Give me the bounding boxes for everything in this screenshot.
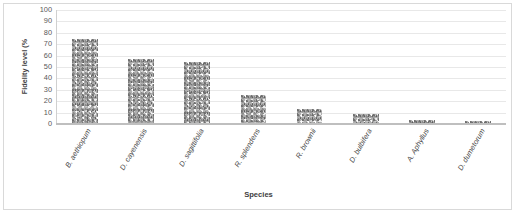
x-axis-tick-label: D. sagittifolia xyxy=(176,127,205,168)
x-label-slot: B. aethiopum xyxy=(57,125,113,187)
bar[interactable] xyxy=(72,39,98,123)
y-axis-tick-label: 100 xyxy=(26,6,52,13)
bar-slot xyxy=(450,10,506,123)
chart-frame: Fidelity level (% 1009080706050403020100… xyxy=(3,3,512,210)
y-axis-tick-label: 80 xyxy=(26,29,52,36)
y-axis-tick-label: 70 xyxy=(26,40,52,47)
x-axis-line xyxy=(56,123,506,124)
y-axis-tick-label: 30 xyxy=(26,86,52,93)
bar-slot xyxy=(394,10,450,123)
bar[interactable] xyxy=(128,59,154,123)
x-label-slot: D. dumetorum xyxy=(451,125,507,187)
x-label-slot: R. splendens xyxy=(226,125,282,187)
x-axis-tick-label: R. brownii xyxy=(294,127,318,160)
y-axis-tick-label: 50 xyxy=(26,63,52,70)
bar[interactable] xyxy=(409,120,435,123)
x-label-slot: D. sagittifolia xyxy=(170,125,226,187)
x-axis-tick-label: R. splendens xyxy=(232,127,261,169)
x-axis-title: Species xyxy=(4,190,513,199)
bar[interactable] xyxy=(297,109,323,123)
bar-slot xyxy=(282,10,338,123)
bar[interactable] xyxy=(241,95,267,123)
y-axis-tick-label: 40 xyxy=(26,75,52,82)
x-label-slot: R. brownii xyxy=(282,125,338,187)
y-axis-tick-label: 10 xyxy=(26,109,52,116)
x-axis-tick-label: D. bulbifera xyxy=(347,127,374,164)
bar-slot xyxy=(225,10,281,123)
bar-slot xyxy=(169,10,225,123)
x-axis-tick-labels: B. aethiopumD. cayenensisD. sagittifolia… xyxy=(57,125,507,187)
bar-slot xyxy=(57,10,113,123)
plot-area xyxy=(56,10,506,124)
x-axis-tick-label: D. cayenensis xyxy=(118,127,149,172)
x-label-slot: A. Aphyllus xyxy=(395,125,451,187)
bar-series xyxy=(57,10,506,123)
x-axis-tick-label: B. aethiopum xyxy=(63,127,93,169)
y-axis-tick-label: 60 xyxy=(26,52,52,59)
y-axis-tick-label: 0 xyxy=(26,120,52,127)
x-label-slot: D. bulbifera xyxy=(338,125,394,187)
y-axis-tick-label: 20 xyxy=(26,97,52,104)
x-axis-tick-label: D. dumetorum xyxy=(455,127,486,172)
x-label-slot: D. cayenensis xyxy=(113,125,169,187)
bar[interactable] xyxy=(465,121,491,123)
y-axis-tick-labels: 1009080706050403020100 xyxy=(26,10,52,124)
bar[interactable] xyxy=(184,62,210,123)
bar[interactable] xyxy=(353,114,379,123)
y-axis-tick-label: 90 xyxy=(26,18,52,25)
bar-slot xyxy=(113,10,169,123)
bar-slot xyxy=(338,10,394,123)
x-axis-tick-label: A. Aphyllus xyxy=(404,127,430,163)
